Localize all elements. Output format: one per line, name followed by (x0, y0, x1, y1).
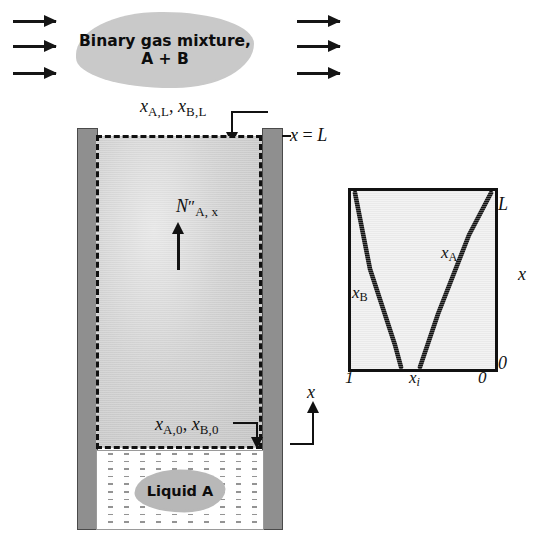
bottom-label-leader-horizontal (233, 422, 258, 424)
bottom-mole-fraction-label: xA,0, xB,0 (155, 414, 219, 438)
inflow-arrow-3 (13, 72, 56, 75)
profile-curves (351, 191, 495, 369)
liquid-a-label: Liquid A (147, 483, 214, 499)
column-left-wall (77, 128, 98, 530)
x-equals-L-value: L (317, 125, 327, 145)
x-axis-tick-middle: xi (409, 368, 420, 390)
coordinate-axis-label: x (307, 382, 315, 403)
gas-cloud-line-2: A + B (141, 50, 189, 68)
coordinate-axis-base (290, 443, 314, 445)
mole-fraction-profile-plot (348, 188, 498, 372)
x-equals-L-symbol: x (290, 125, 298, 145)
x-A-curve (420, 193, 491, 367)
molar-flux-arrow-head (172, 222, 184, 234)
outflow-arrow-2 (297, 45, 340, 48)
x-B-L-subscript: B,L (186, 104, 206, 119)
molar-flux-label: N″A, x (176, 196, 218, 220)
coordinate-axis-shaft (312, 412, 314, 444)
y-axis-tick-top: L (498, 194, 508, 215)
flux-subscript: A, x (195, 204, 218, 219)
x-B-L-symbol: x (178, 96, 186, 116)
x-A-L-subscript: A,L (148, 104, 169, 119)
x-B-curve (355, 193, 401, 367)
y-axis-tick-bottom: 0 (498, 353, 507, 374)
x-B-curve-label: xB (352, 283, 368, 305)
x-A-0-symbol: x (155, 414, 163, 434)
outflow-arrow-3 (297, 72, 340, 75)
inflow-arrow-2 (13, 45, 56, 48)
x-A-L-symbol: x (140, 96, 148, 116)
outflow-arrow-1 (297, 20, 340, 23)
x-A-curve-label: xA (441, 243, 458, 265)
binary-gas-mixture-cloud: Binary gas mixture, A + B (78, 14, 252, 86)
flux-symbol: N (176, 196, 188, 216)
control-volume-boundary (96, 135, 262, 449)
gas-cloud-line-1: Binary gas mixture, (79, 32, 251, 50)
molar-flux-arrow-shaft (177, 232, 180, 270)
x-A-0-subscript: A,0 (163, 422, 183, 437)
x-B-0-subscript: B,0 (200, 422, 219, 437)
x-axis-tick-left: 1 (345, 368, 354, 388)
inflow-arrow-1 (13, 20, 56, 23)
bottom-label-leader-arrowhead (251, 437, 263, 449)
x-equals-L-operator: = (298, 125, 317, 145)
plot-y-axis-label: x (518, 264, 526, 285)
column-right-wall (262, 128, 283, 530)
top-label-leader-horizontal (232, 111, 268, 113)
x-axis-tick-right: 0 (478, 368, 487, 388)
x-equals-L-label: x = L (290, 125, 327, 146)
top-mole-fraction-label: xA,L, xB,L (140, 96, 207, 120)
x-B-0-symbol: x (192, 414, 200, 434)
liquid-a-cloud: Liquid A (137, 472, 223, 510)
